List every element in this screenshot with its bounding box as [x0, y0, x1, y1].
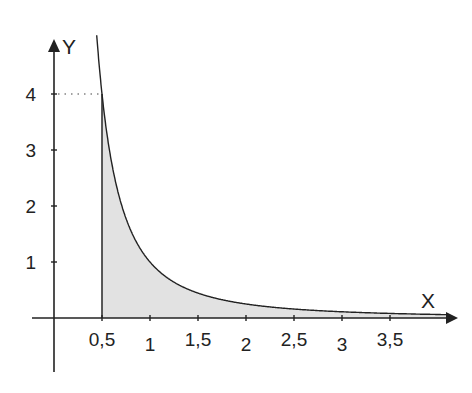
x-tick-label: 3,5 [377, 329, 403, 350]
shaded-region [102, 94, 448, 318]
y-tick-label: 1 [25, 252, 36, 273]
x-axis-arrow-icon [446, 312, 458, 324]
y-axis-arrow-icon [48, 39, 60, 52]
x-axis-label: X [421, 289, 435, 312]
y-axis-label: Y [62, 35, 76, 58]
function-plot: 0,511,522,533,51234 X Y [0, 0, 472, 393]
y-tick-label: 4 [25, 84, 36, 105]
x-tick-label: 2 [241, 334, 252, 355]
y-tick-label: 3 [25, 140, 36, 161]
shaded-area [102, 94, 448, 318]
x-tick-label: 1 [145, 334, 156, 355]
x-tick-label: 3 [337, 334, 348, 355]
x-tick-label: 1,5 [185, 329, 211, 350]
axes [32, 39, 458, 372]
y-tick-label: 2 [25, 196, 36, 217]
x-tick-label: 2,5 [281, 329, 307, 350]
x-tick-label: 0,5 [89, 329, 115, 350]
